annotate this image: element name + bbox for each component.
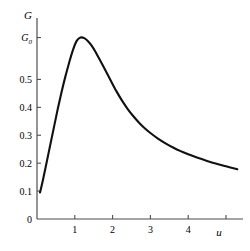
x-axis-title: u xyxy=(216,226,222,238)
x-axis-tick-labels: 1234 xyxy=(72,224,190,235)
x-tick-label: 2 xyxy=(110,224,115,235)
y-tick-label: 0.1 xyxy=(20,186,33,197)
data-series-curve xyxy=(40,37,237,192)
x-tick-label: 3 xyxy=(148,224,153,235)
y-tick-label: 0.4 xyxy=(20,102,33,113)
x-tick-label: 1 xyxy=(72,224,77,235)
chart-plot: 00.10.20.30.40.5G0 1234 G u xyxy=(0,0,250,251)
y-axis-title: G xyxy=(24,9,32,21)
y-tick-label: G0 xyxy=(21,32,32,45)
x-tick-label: 4 xyxy=(186,224,191,235)
y-tick-label: 0.2 xyxy=(20,158,33,169)
y-tick-label: 0 xyxy=(27,214,32,225)
figure-container: 00.10.20.30.40.5G0 1234 G u xyxy=(0,0,250,251)
y-tick-label: 0.5 xyxy=(20,74,33,85)
y-axis-tick-labels: 00.10.20.30.40.5G0 xyxy=(20,32,33,224)
y-tick-label: 0.3 xyxy=(20,130,33,141)
